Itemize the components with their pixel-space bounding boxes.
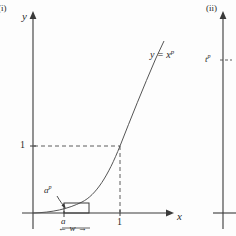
x-axis-label: x <box>177 211 182 222</box>
y-axis-label: y <box>22 11 27 22</box>
curve-label: y = xp <box>150 49 174 60</box>
panel-ii-value-exponent: p <box>208 53 211 59</box>
y-axis-arrowhead <box>30 11 37 19</box>
figure-root: (i) y x y = xp 1 1 ap a ←w→ (ii) tp <box>0 0 236 236</box>
x-tick-label-1: 1 <box>117 217 122 227</box>
panel-ii-axis-arrowhead <box>220 11 227 19</box>
panel-ii-tag: (ii) <box>206 4 217 13</box>
rect-height-annotation: ap <box>44 184 52 195</box>
width-label: w <box>68 223 79 233</box>
width-left-arrow-icon: ← <box>58 223 68 233</box>
panel-i-axes <box>22 11 174 229</box>
curve-label-base: y = x <box>150 49 171 60</box>
curve-label-exponent: p <box>171 48 174 55</box>
panel-ii-axes <box>213 11 236 229</box>
x-axis-arrowhead <box>166 210 174 217</box>
figure-canvas <box>0 0 236 236</box>
power-curve <box>33 41 164 213</box>
width-right-arrow-icon: → <box>78 223 88 233</box>
rect-height-exponent: p <box>49 184 52 190</box>
width-label-group: ←w→ <box>58 224 88 233</box>
y-tick-label-1: 1 <box>20 140 25 150</box>
panel-i-tag: (i) <box>0 4 7 13</box>
panel-ii-value-label: tp <box>205 53 211 64</box>
